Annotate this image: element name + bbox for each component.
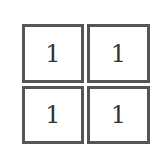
- grid-cell-bottom-left: 1: [22, 86, 84, 144]
- number-grid: 1 1 1 1: [22, 24, 150, 144]
- cell-value: 1: [111, 40, 126, 68]
- grid-cell-bottom-right: 1: [87, 86, 150, 144]
- grid-cell-top-right: 1: [87, 24, 150, 83]
- cell-value: 1: [111, 101, 126, 129]
- grid-cell-top-left: 1: [22, 24, 84, 83]
- cell-value: 1: [45, 40, 60, 68]
- cell-value: 1: [45, 101, 60, 129]
